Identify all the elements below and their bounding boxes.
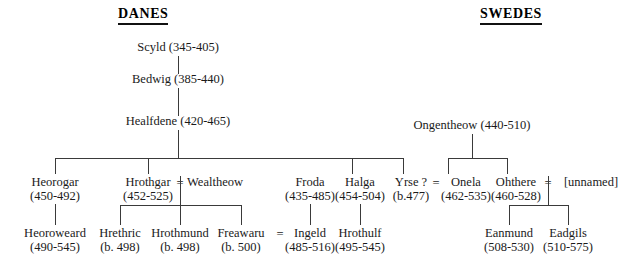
connector-to-yrse bbox=[403, 158, 404, 174]
node-eanmund-dates: (508-530) bbox=[484, 241, 534, 255]
marriage-yrse-onela: = bbox=[432, 176, 439, 190]
node-hrethric-dates: (b. 498) bbox=[99, 241, 141, 255]
node-hrothulf-dates: (495-545) bbox=[335, 241, 385, 255]
connector-hrothgar-marriage-drop bbox=[180, 176, 181, 205]
node-unnamed-spouse-name: [unnamed] bbox=[564, 176, 618, 190]
connector-to-hrothgar bbox=[148, 158, 149, 174]
node-froda-dates: (435-485) bbox=[285, 190, 335, 204]
node-bedwig-dates: (385-440) bbox=[174, 72, 224, 86]
node-bedwig-name: Bedwig bbox=[132, 72, 171, 86]
node-bedwig: Bedwig (385-440) bbox=[132, 72, 224, 86]
connector-halga-hrothulf bbox=[360, 204, 361, 225]
node-hrothmund-name: Hrothmund bbox=[151, 227, 209, 241]
connector-heorogar-heoroweard bbox=[55, 204, 56, 225]
heading-danes: DANES bbox=[118, 6, 168, 25]
node-heorogar-name: Heorogar bbox=[30, 176, 80, 190]
connector-to-eadgils bbox=[568, 205, 569, 225]
node-eanmund: Eanmund (508-530) bbox=[484, 227, 534, 254]
heading-swedes: SWEDES bbox=[480, 6, 542, 25]
node-hrothulf: Hrothulf (495-545) bbox=[335, 227, 385, 254]
node-hrethric-name: Hrethric bbox=[99, 227, 141, 241]
connector-ohthere-marriage-drop bbox=[548, 176, 549, 205]
node-eadgils-name: Eadgils bbox=[543, 227, 593, 241]
node-yrse-dates: (b.477) bbox=[393, 190, 429, 204]
node-wealtheow-name: Wealtheow bbox=[187, 176, 243, 190]
node-heoroweard: Heoroweard (490-545) bbox=[24, 227, 86, 254]
connector-to-halga bbox=[352, 158, 353, 174]
marriage-freawaru-ingeld: = bbox=[276, 227, 283, 241]
genealogy-chart: DANES SWEDES Scyld (345-405) Bedwig (385… bbox=[0, 0, 637, 267]
node-healfdene: Healfdene (420-465) bbox=[126, 114, 230, 128]
node-ingeld: Ingeld (485-516) bbox=[285, 227, 335, 254]
node-hrothgar: Hrothgar (452-525) bbox=[123, 176, 173, 203]
sibling-bar-ongentheow-children bbox=[448, 158, 508, 159]
connector-froda-ingeld bbox=[310, 204, 311, 225]
node-hrothmund: Hrothmund (b. 498) bbox=[151, 227, 209, 254]
node-halga: Halga (454-504) bbox=[335, 176, 385, 203]
node-scyld: Scyld (345-405) bbox=[137, 40, 219, 54]
node-onela-name: Onela bbox=[441, 176, 491, 190]
node-unnamed-spouse: [unnamed] bbox=[564, 176, 618, 190]
node-freawaru-dates: (b. 500) bbox=[217, 241, 264, 255]
node-eadgils-dates: (510-575) bbox=[543, 241, 593, 255]
connector-to-hrethric bbox=[120, 205, 121, 225]
node-yrse-name: Yrse ? bbox=[393, 176, 429, 190]
node-ingeld-dates: (485-516) bbox=[285, 241, 335, 255]
node-heorogar: Heorogar (450-492) bbox=[30, 176, 80, 203]
sibling-bar-ohthere-children bbox=[509, 205, 568, 206]
node-onela: Onela (462-535) bbox=[441, 176, 491, 203]
connector-to-ohthere bbox=[507, 158, 508, 174]
node-hrothmund-dates: (b. 498) bbox=[151, 241, 209, 255]
node-hrethric: Hrethric (b. 498) bbox=[99, 227, 141, 254]
node-hrothgar-dates: (452-525) bbox=[123, 190, 173, 204]
node-scyld-dates: (345-405) bbox=[169, 40, 219, 54]
connector-healfdene-stem bbox=[178, 130, 179, 158]
node-yrse: Yrse ? (b.477) bbox=[393, 176, 429, 203]
node-froda-name: Froda bbox=[285, 176, 335, 190]
node-halga-name: Halga bbox=[335, 176, 385, 190]
node-ingeld-name: Ingeld bbox=[285, 227, 335, 241]
connector-to-eanmund bbox=[509, 205, 510, 225]
node-hrothgar-name: Hrothgar bbox=[123, 176, 173, 190]
node-ongentheow-name: Ongentheow bbox=[414, 118, 478, 132]
connector-to-heorogar bbox=[55, 158, 56, 174]
node-ongentheow-dates: (440-510) bbox=[481, 118, 531, 132]
node-freawaru: Freawaru (b. 500) bbox=[217, 227, 264, 254]
node-heoroweard-name: Heoroweard bbox=[24, 227, 86, 241]
node-healfdene-dates: (420-465) bbox=[180, 114, 230, 128]
node-froda: Froda (435-485) bbox=[285, 176, 335, 203]
node-wealtheow: Wealtheow bbox=[187, 176, 243, 190]
connector-to-freawaru bbox=[241, 205, 242, 225]
connector-to-onela bbox=[448, 158, 449, 174]
node-onela-dates: (462-535) bbox=[441, 190, 491, 204]
node-ohthere-name: Ohthere bbox=[491, 176, 541, 190]
node-eadgils: Eadgils (510-575) bbox=[543, 227, 593, 254]
connector-to-hrothmund bbox=[180, 205, 181, 225]
node-ohthere: Ohthere (460-528) bbox=[491, 176, 541, 203]
node-healfdene-name: Healfdene bbox=[126, 114, 177, 128]
node-halga-dates: (454-504) bbox=[335, 190, 385, 204]
node-ongentheow: Ongentheow (440-510) bbox=[414, 118, 531, 132]
node-freawaru-name: Freawaru bbox=[217, 227, 264, 241]
node-scyld-name: Scyld bbox=[137, 40, 165, 54]
node-heoroweard-dates: (490-545) bbox=[24, 241, 86, 255]
connector-ongentheow-stem bbox=[472, 134, 473, 158]
node-heorogar-dates: (450-492) bbox=[30, 190, 80, 204]
node-eanmund-name: Eanmund bbox=[484, 227, 534, 241]
node-hrothulf-name: Hrothulf bbox=[335, 227, 385, 241]
connector-bedwig-healfdene bbox=[178, 88, 179, 116]
node-ohthere-dates: (460-528) bbox=[491, 190, 541, 204]
